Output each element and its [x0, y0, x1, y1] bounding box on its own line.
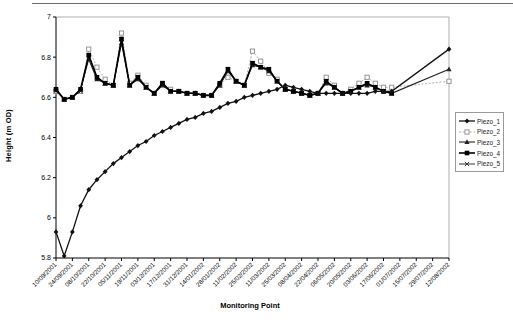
series-Piezo_1: [54, 47, 452, 259]
legend-item-Piezo_4: Piezo_4: [459, 148, 501, 159]
x-axis-title: Monitoring Point: [130, 301, 370, 310]
diamond-marker-icon: [459, 117, 475, 125]
legend-label: Piezo_4: [477, 150, 500, 157]
svg-text:6.4: 6.4: [41, 134, 51, 141]
triangle-marker-icon: [459, 138, 475, 146]
open-square-marker-icon: [459, 128, 475, 136]
x-marker-icon: [459, 160, 475, 168]
y-axis-title: Height (m OD): [4, 71, 13, 201]
svg-text:7: 7: [47, 13, 51, 20]
legend-label: Piezo_5: [477, 160, 500, 167]
svg-text:6.6: 6.6: [41, 94, 51, 101]
legend-item-Piezo_1: Piezo_1: [459, 116, 501, 127]
square-marker-icon: [459, 149, 475, 157]
svg-text:6.2: 6.2: [41, 174, 51, 181]
legend-item-Piezo_2: Piezo_2: [459, 127, 501, 138]
legend-item-Piezo_3: Piezo_3: [459, 137, 501, 148]
legend-label: Piezo_2: [477, 128, 500, 135]
svg-text:6: 6: [47, 214, 51, 221]
chart-plot-area: 5.866.26.46.66.8710/09/200124/09/200108/…: [0, 0, 513, 327]
legend-item-Piezo_5: Piezo_5: [459, 158, 501, 169]
piezometer-line-chart: 5.866.26.46.66.8710/09/200124/09/200108/…: [0, 0, 513, 327]
legend-label: Piezo_3: [477, 139, 500, 146]
y-axis-ticks: 5.866.26.46.66.87: [41, 13, 56, 261]
top-border-line: [32, 3, 513, 4]
svg-text:5.8: 5.8: [41, 254, 51, 261]
legend: Piezo_1Piezo_2Piezo_3Piezo_4Piezo_5: [455, 112, 504, 172]
svg-text:6.8: 6.8: [41, 54, 51, 61]
legend-label: Piezo_1: [477, 118, 500, 125]
x-axis-ticks: 10/09/200124/09/200108/10/200122/10/2001…: [30, 258, 451, 288]
